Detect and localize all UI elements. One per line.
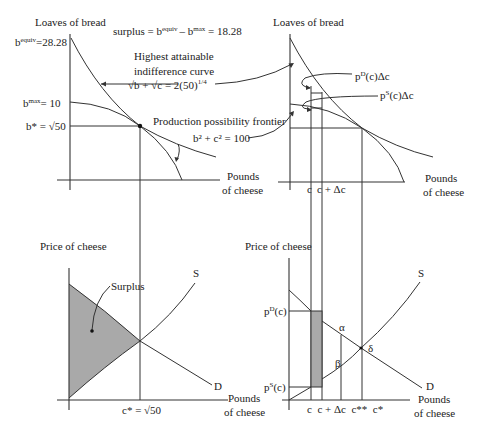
demand-curve bbox=[322, 321, 422, 388]
tangency-point bbox=[138, 124, 142, 128]
indiff-label-line1: Highest attainable bbox=[134, 50, 214, 62]
x-axis-label-1: Pounds bbox=[418, 393, 450, 405]
x-axis-label-2: of cheese bbox=[224, 406, 265, 418]
supply-curve-left bbox=[289, 387, 311, 400]
x-axis-label-1: Pounds bbox=[227, 170, 259, 182]
x-axis-label-2: of cheese bbox=[423, 186, 464, 198]
y-axis-label: Loaves of bread bbox=[273, 16, 344, 28]
panel-bottom-left: Price of cheese Surplus S D c* = √50 Pou… bbox=[40, 240, 265, 418]
pd-label: pD(c) bbox=[264, 305, 287, 318]
surplus-label: Surplus bbox=[111, 280, 145, 292]
indiff-long-arrow bbox=[215, 64, 292, 84]
surplus-area bbox=[69, 284, 140, 398]
supply-label: S bbox=[193, 267, 199, 279]
x-axis-label-2: of cheese bbox=[414, 407, 455, 419]
panel-top-left: Loaves of bread bequiv=28.28 bmax= 10 b*… bbox=[15, 16, 294, 400]
pd-dc-label: pD(c)Δc bbox=[355, 70, 390, 83]
tick-c-dc: c + Δc bbox=[317, 183, 346, 195]
tick-c: c bbox=[307, 183, 312, 195]
x-axis-label-1: Pounds bbox=[425, 172, 457, 184]
x-axis-label-1: Pounds bbox=[228, 392, 260, 404]
c-star-label: c* = √50 bbox=[122, 404, 162, 416]
arrow-head-icon bbox=[101, 82, 106, 87]
indiff-label-line2: indifference curve bbox=[134, 65, 214, 77]
ps-label: pS(c) bbox=[264, 381, 286, 394]
delta-label: δ bbox=[368, 342, 373, 354]
diagram-canvas: Loaves of bread bequiv=28.28 bmax= 10 b*… bbox=[0, 0, 480, 434]
equilibrium-point bbox=[359, 346, 362, 349]
ppf-equation: b² + c² = 100 bbox=[193, 132, 250, 144]
shaded-rectangle bbox=[311, 311, 322, 387]
beta-label: β bbox=[335, 357, 341, 369]
arrow-head-icon bbox=[306, 85, 311, 90]
panel-bottom-right: Price of cheese pD(c) pS(c) α β δ S D c … bbox=[245, 240, 455, 419]
demand-label: D bbox=[426, 380, 434, 392]
supply-label: S bbox=[418, 267, 424, 279]
surplus-formula: surplus = bequiv– bmax = 18.28 bbox=[113, 25, 242, 37]
ppf-pointer bbox=[177, 144, 179, 160]
ps-dc-label: pS(c)Δc bbox=[380, 89, 414, 102]
y-axis-label: Loaves of bread bbox=[35, 16, 106, 28]
b-star-label: b* = √50 bbox=[26, 120, 66, 132]
x-ticks: c c + Δc c** c* bbox=[307, 403, 383, 415]
b-max-label: bmax= 10 bbox=[23, 97, 61, 109]
indiff-equation: √b + √c = 2(50)1/4 bbox=[128, 78, 207, 92]
surplus-dot bbox=[90, 329, 94, 333]
x-axis-label-2: of cheese bbox=[222, 184, 263, 196]
b-equiv-label: bequiv=28.28 bbox=[15, 36, 68, 48]
pd-pointer bbox=[302, 74, 352, 89]
y-axis-label: Price of cheese bbox=[245, 240, 312, 252]
alpha-label: α bbox=[339, 321, 345, 333]
demand-curve-left bbox=[289, 290, 311, 311]
ppf-label: Production possibility frontier bbox=[153, 115, 286, 127]
y-axis-label: Price of cheese bbox=[40, 240, 107, 252]
demand-label: D bbox=[214, 380, 222, 392]
